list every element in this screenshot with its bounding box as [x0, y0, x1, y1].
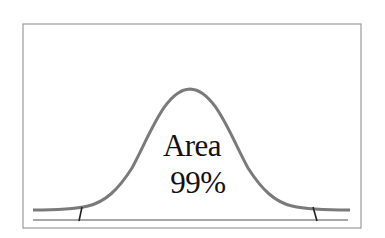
- area-label: Area: [132, 130, 252, 161]
- left-tick-mark: [79, 207, 82, 221]
- normal-curve-diagram: [0, 0, 385, 238]
- area-percent-label: 99%: [138, 167, 258, 198]
